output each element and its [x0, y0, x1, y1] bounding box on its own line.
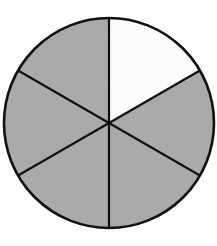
fraction-circle-diagram: [0, 0, 217, 246]
